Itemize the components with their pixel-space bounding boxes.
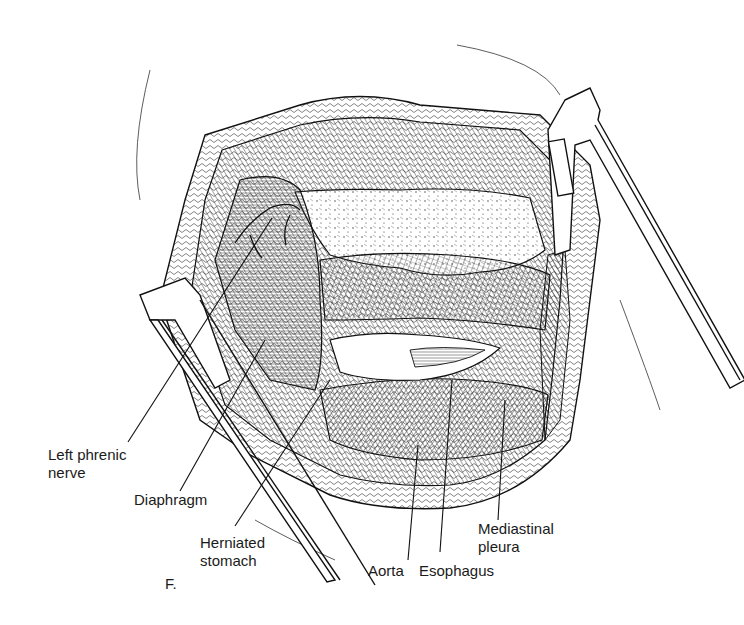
- label-line: Aorta: [368, 562, 404, 580]
- stomach-upper: [320, 253, 550, 330]
- stomach-lower: [320, 379, 548, 460]
- label-line: Diaphragm: [134, 491, 207, 509]
- label-line: Left phrenic: [48, 446, 126, 464]
- label-left-phrenic-nerve: Left phrenic nerve: [48, 446, 126, 482]
- label-diaphragm: Diaphragm: [134, 491, 207, 509]
- label-aorta: Aorta: [368, 562, 404, 580]
- label-line: stomach: [200, 552, 265, 570]
- label-line: Mediastinal: [478, 520, 554, 538]
- label-mediastinal-pleura: Mediastinal pleura: [478, 520, 554, 556]
- panel-letter: F.: [165, 575, 177, 593]
- label-line: Herniated: [200, 534, 265, 552]
- surgical-illustration: [0, 0, 744, 625]
- label-line: nerve: [48, 464, 126, 482]
- label-line: pleura: [478, 538, 554, 556]
- label-line: Esophagus: [419, 562, 494, 580]
- label-herniated-stomach: Herniated stomach: [200, 534, 265, 570]
- label-esophagus: Esophagus: [419, 562, 494, 580]
